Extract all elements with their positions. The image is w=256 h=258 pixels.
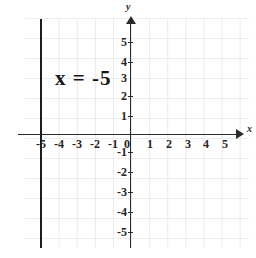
y-tick--4-text: -4 <box>117 206 128 218</box>
x-axis-label: x <box>247 123 252 134</box>
y-tick--1-text: -1 <box>117 146 128 158</box>
x-tick--3: -3 <box>72 138 82 150</box>
x-tick--4: -4 <box>54 138 64 150</box>
x-tick-3: 3 <box>185 138 191 150</box>
y-tickmark-4 <box>128 62 133 63</box>
y-tickmark--1 <box>128 152 133 153</box>
y-tick-1-text: 1 <box>121 110 128 122</box>
x-tick-1: 1 <box>147 138 153 150</box>
x-tick-4: 4 <box>203 138 209 150</box>
graph-figure: x y -5 -4 -3 -2 -1 0 1 2 3 4 5 5 4 3 2 1… <box>0 0 256 258</box>
y-tick-4-text: 4 <box>121 56 128 68</box>
x-tick-2: 2 <box>166 138 172 150</box>
y-axis-arrow-icon <box>126 16 136 24</box>
y-tickmark--2 <box>128 172 133 173</box>
y-tickmark-1 <box>128 116 133 117</box>
y-axis-label: y <box>126 1 130 12</box>
y-tickmark-5 <box>128 42 133 43</box>
y-tickmark--5 <box>128 232 133 233</box>
y-tickmark--4 <box>128 212 133 213</box>
y-tick--5-text: -5 <box>117 226 128 238</box>
y-tick-3-text: 3 <box>121 72 128 84</box>
x-tick--2: -2 <box>90 138 100 150</box>
y-tick--3-text: -3 <box>117 186 128 198</box>
y-tick-2-text: 2 <box>121 90 128 102</box>
x-axis-line <box>18 134 240 135</box>
x-axis-arrow-icon <box>236 129 244 139</box>
y-tick-3: 3 <box>128 72 135 84</box>
y-tickmark--3 <box>128 192 133 193</box>
x-tick-5: 5 <box>222 138 228 150</box>
y-tickmark-2 <box>128 96 133 97</box>
y-tick--2-text: -2 <box>117 166 128 178</box>
plotted-line-x-equals-minus-5 <box>40 19 42 248</box>
y-tick-5-text: 5 <box>121 36 128 48</box>
equation-annotation: x = -5 <box>55 66 111 91</box>
